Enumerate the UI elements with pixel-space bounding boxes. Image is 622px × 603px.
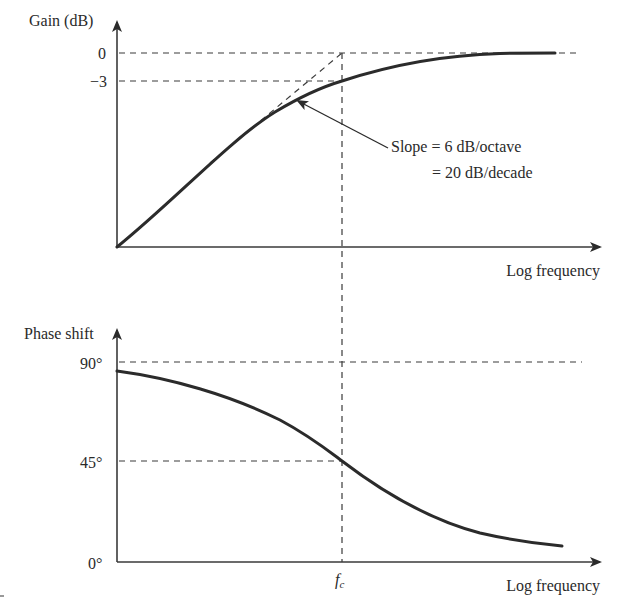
slope-annotation-line1: Slope = 6 dB/octave — [391, 138, 521, 156]
fc-label-subscript: c — [339, 578, 344, 590]
gain-x-label: Log frequency — [506, 262, 600, 280]
tick-minus3db: −3 — [90, 73, 107, 90]
gain-y-label: Gain (dB) — [29, 12, 93, 30]
slope-annotation-arrow — [298, 101, 388, 148]
phase-plot: Phase shift 90° 45° 0° Log frequency fc — [24, 325, 600, 595]
phase-x-label: Log frequency — [506, 577, 600, 595]
tick-90deg: 90° — [80, 355, 102, 372]
bode-plot-figure: Gain (dB) 0 −3 Log frequency Slope = 6 d… — [0, 0, 622, 603]
cutoff-frequency-label: fc — [335, 571, 344, 590]
phase-curve — [117, 371, 562, 546]
phase-y-label: Phase shift — [24, 325, 94, 342]
slope-annotation-line2: = 20 dB/decade — [432, 164, 533, 181]
tick-0db: 0 — [98, 45, 106, 62]
tick-45deg: 45° — [80, 454, 102, 471]
gain-plot: Gain (dB) 0 −3 Log frequency Slope = 6 d… — [29, 12, 600, 562]
tick-0deg: 0° — [88, 555, 102, 572]
